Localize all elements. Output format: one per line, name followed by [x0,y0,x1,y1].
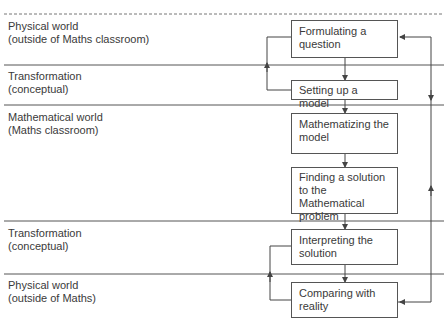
step-text: Interpreting the [299,234,390,247]
zone-title: Physical world [8,279,96,292]
step-text: Formulating a [299,25,390,38]
zone-title: Physical world [8,20,149,33]
zone-label-transformation-top: Transformation (conceptual) [8,70,82,96]
step-text: to the Mathematical [299,184,390,210]
bottom-feedback-loop [270,246,291,300]
step-text: question [299,38,390,51]
step-text: solution [299,247,390,260]
step-mathematizing-model: Mathematizing the model [291,113,398,154]
zone-title: Mathematical world [8,111,103,124]
step-text: Comparing with [299,287,390,300]
step-text: reality [299,300,390,313]
zone-title: Transformation [8,70,82,83]
step-text: Finding a solution [299,171,390,184]
zone-label-physical-world-bottom: Physical world (outside of Maths) [8,279,96,305]
step-setting-up-model: Setting up a model [291,80,398,100]
top-feedback-loop [267,37,291,90]
step-interpreting-solution: Interpreting the solution [291,229,398,265]
zone-subtitle: (Maths classroom) [8,124,103,137]
step-text: model [299,131,390,144]
step-finding-solution: Finding a solution to the Mathematical p… [291,167,398,214]
zone-subtitle: (conceptual) [8,83,82,96]
right-outer-loop [398,37,431,302]
zone-label-physical-world-top: Physical world (outside of Maths classro… [8,20,149,46]
step-text: Setting up a model [299,84,390,110]
step-comparing-reality: Comparing with reality [291,282,398,318]
step-text: Mathematizing the [299,118,390,131]
zone-subtitle: (conceptual) [8,240,82,253]
zone-subtitle: (outside of Maths classroom) [8,33,149,46]
zone-label-transformation-bottom: Transformation (conceptual) [8,227,82,253]
zone-subtitle: (outside of Maths) [8,292,96,305]
step-formulating-question: Formulating a question [291,20,398,58]
zone-label-mathematical-world: Mathematical world (Maths classroom) [8,111,103,137]
step-text: problem [299,210,390,223]
zone-title: Transformation [8,227,82,240]
